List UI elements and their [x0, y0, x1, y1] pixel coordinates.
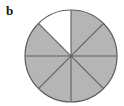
pie-chart [0, 0, 124, 106]
pie-figure-panel: b [0, 0, 124, 106]
